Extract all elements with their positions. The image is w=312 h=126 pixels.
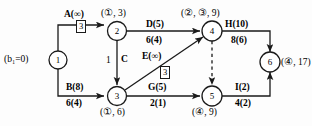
node-3-number: 3 xyxy=(109,92,125,101)
edge-C-name: C xyxy=(121,55,128,65)
node-5-label: (④, 9) xyxy=(192,108,217,118)
edge-A-flow-box: 3 xyxy=(76,20,86,33)
edge-B-capacity: 6(4) xyxy=(66,99,82,109)
edge-I-name: I(2) xyxy=(235,83,250,93)
edge-H-capacity: 8(6) xyxy=(231,36,247,46)
node-5-number: 5 xyxy=(204,92,220,101)
edge-I-capacity: 4(2) xyxy=(235,99,251,109)
edge-D-capacity: 6(4) xyxy=(146,36,162,46)
edge-D-name: D(5) xyxy=(146,20,164,30)
source-supply-label: (b₁=0) xyxy=(4,55,29,65)
node-6-label: (④, 17) xyxy=(281,58,311,68)
node-1-number: 1 xyxy=(50,56,66,65)
edge-G-name: G(5) xyxy=(148,83,166,93)
node-2-label: (①, 3) xyxy=(101,9,126,19)
edge-E-flow-box: 3 xyxy=(160,66,170,79)
node-4-number: 4 xyxy=(204,27,220,36)
edge-A-name: A(∞) xyxy=(64,10,84,20)
edge-G-capacity: 2(1) xyxy=(150,99,166,109)
edge-E-name: E(∞) xyxy=(142,52,161,62)
node-2-number: 2 xyxy=(109,27,125,36)
edge-B-name: B(8) xyxy=(66,83,83,93)
edge-H-name: H(10) xyxy=(225,20,248,30)
node-3-label: (①, 6) xyxy=(100,108,125,118)
edge-C-capacity: 1 xyxy=(106,56,111,66)
node-4-label: (②, ③, 9) xyxy=(181,9,220,19)
network-flow-diagram: 1 2 3 4 5 6 (b₁=0) (①, 3) (①, 6) (②, ③, … xyxy=(0,0,312,126)
node-6-number: 6 xyxy=(262,58,278,67)
